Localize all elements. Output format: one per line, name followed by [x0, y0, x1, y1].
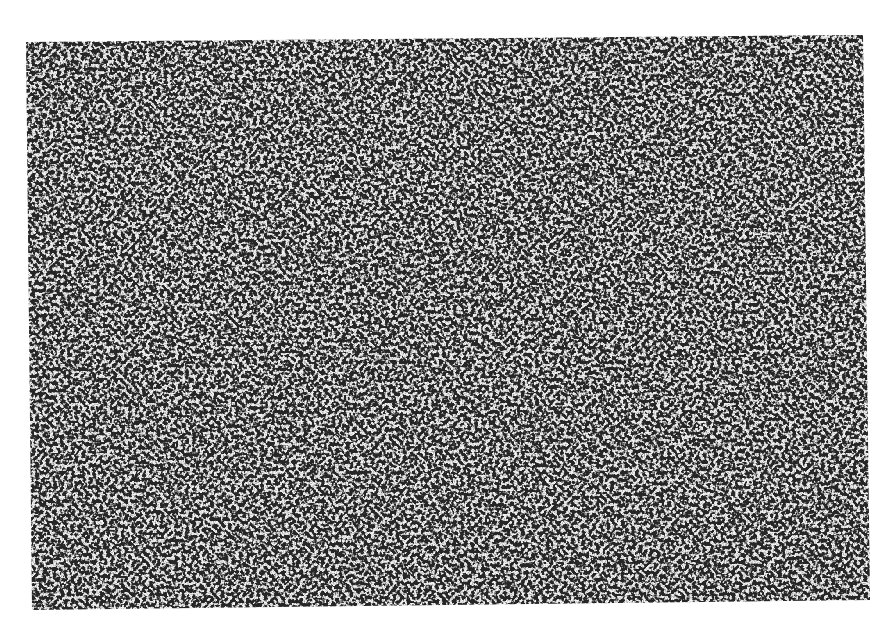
- tissue-section: [0, 0, 885, 620]
- micrograph-canvas: [0, 0, 885, 620]
- micrograph-image: [0, 0, 885, 620]
